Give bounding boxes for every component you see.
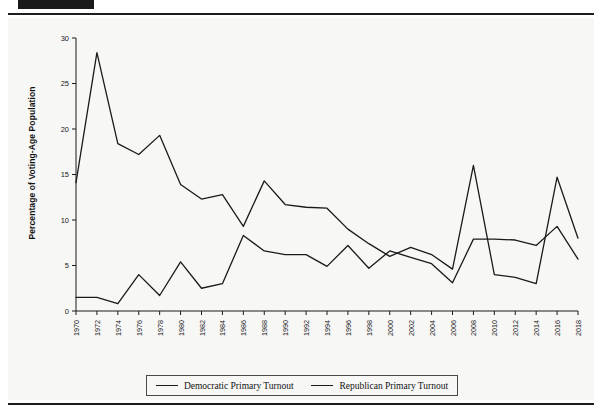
y-tick-label: 15: [61, 170, 69, 179]
x-tick-label: 2004: [428, 320, 437, 336]
y-tick-label: 20: [61, 125, 69, 134]
x-tick-label: 2012: [511, 320, 520, 336]
y-tick-label: 5: [65, 261, 69, 270]
legend-item-republican: Republican Primary Turnout: [311, 381, 448, 391]
header-redaction-block: [18, 0, 94, 9]
legend-label-democratic: Democratic Primary Turnout: [184, 381, 294, 391]
x-tick-label: 1970: [72, 320, 81, 336]
x-tick-label: 1978: [156, 320, 165, 336]
x-tick-label: 2008: [469, 320, 478, 336]
figure-panel: Percentage of Voting-Age Population 0510…: [8, 18, 594, 400]
x-tick-label: 1972: [93, 320, 102, 336]
x-tick-label: 2006: [449, 320, 458, 336]
x-tick-label: 1996: [344, 320, 353, 336]
x-tick-label: 1980: [177, 320, 186, 336]
x-tick-label: 2018: [574, 320, 583, 336]
chart-plot-area: 0510152025301970197219741976197819801982…: [8, 18, 594, 358]
x-tick-label: 2000: [386, 320, 395, 336]
x-tick-label: 2014: [532, 320, 541, 336]
x-tick-label: 1994: [323, 320, 332, 336]
x-tick-label: 2016: [553, 320, 562, 336]
x-tick-label: 1984: [218, 320, 227, 336]
x-tick-label: 1986: [239, 320, 248, 336]
line-chart: Percentage of Voting-Age Population 0510…: [8, 18, 594, 358]
figure-page: Percentage of Voting-Age Population 0510…: [0, 0, 602, 413]
x-tick-label: 1988: [260, 320, 269, 336]
x-tick-label: 1976: [135, 320, 144, 336]
x-tick-label: 1982: [198, 320, 207, 336]
legend-item-democratic: Democratic Primary Turnout: [156, 381, 294, 391]
x-tick-label: 2002: [407, 320, 416, 336]
top-rule: [8, 13, 594, 15]
series-line-democratic: [76, 53, 578, 284]
legend-line-democratic: [156, 385, 178, 386]
chart-legend: Democratic Primary Turnout Republican Pr…: [146, 375, 458, 396]
y-tick-label: 25: [61, 79, 69, 88]
series-line-republican: [76, 226, 578, 303]
header-cropped-text: [140, 0, 560, 5]
legend-label-republican: Republican Primary Turnout: [339, 381, 448, 391]
x-tick-label: 2010: [490, 320, 499, 336]
x-tick-label: 1992: [302, 320, 311, 336]
y-tick-label: 10: [61, 216, 69, 225]
y-tick-label: 0: [65, 307, 69, 316]
x-tick-label: 1990: [281, 320, 290, 336]
legend-line-republican: [311, 385, 333, 386]
bottom-rule: [8, 403, 594, 405]
x-tick-label: 1974: [114, 320, 123, 336]
x-tick-label: 1998: [365, 320, 374, 336]
y-tick-label: 30: [61, 34, 69, 43]
